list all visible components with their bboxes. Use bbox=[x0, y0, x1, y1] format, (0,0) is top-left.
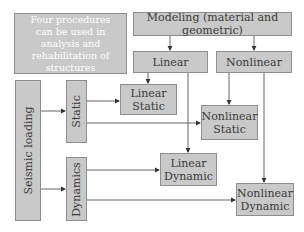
seismic-loading-box: Seismic loading bbox=[15, 80, 41, 221]
intro-note-box: Four procedures can be used in analysis … bbox=[14, 13, 127, 74]
dynamics-box: Dynamics bbox=[66, 157, 87, 221]
seismic-loading-label: Seismic loading bbox=[22, 106, 35, 194]
nonlinear-dynamic-box: Nonlinear Dynamic bbox=[236, 183, 294, 216]
modeling-label: Modeling (material and geometric) bbox=[134, 11, 291, 37]
linear-static-box: Linear Static bbox=[120, 84, 177, 115]
nonlinear-box: Nonlinear bbox=[216, 51, 292, 73]
modeling-box: Modeling (material and geometric) bbox=[133, 12, 292, 36]
nonlinear-static-box: Nonlinear Static bbox=[201, 105, 258, 140]
intro-note-text: Four procedures can be used in analysis … bbox=[21, 14, 120, 74]
linear-box: Linear bbox=[133, 51, 208, 73]
nonlinear-label: Nonlinear bbox=[226, 56, 282, 69]
static-label: Static bbox=[70, 95, 83, 128]
procedures-diagram: Four procedures can be used in analysis … bbox=[0, 0, 304, 232]
linear-static-label: Linear Static bbox=[121, 87, 176, 113]
dynamics-label: Dynamics bbox=[70, 162, 83, 216]
linear-dynamic-label: Linear Dynamic bbox=[161, 157, 216, 183]
static-box: Static bbox=[66, 80, 87, 143]
linear-label: Linear bbox=[152, 56, 188, 69]
nonlinear-dynamic-label: Nonlinear Dynamic bbox=[237, 187, 293, 213]
nonlinear-static-label: Nonlinear Static bbox=[202, 110, 258, 136]
linear-dynamic-box: Linear Dynamic bbox=[160, 153, 217, 186]
